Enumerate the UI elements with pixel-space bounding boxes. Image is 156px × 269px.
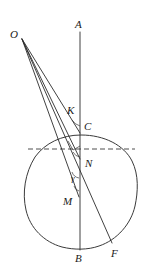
figure-root: A O K C N M B F γ (0, 0, 156, 269)
point-label-A: A (74, 18, 82, 30)
oval-outline (24, 135, 137, 249)
point-label-O: O (10, 28, 18, 40)
angle-arc-at-M (74, 186, 79, 191)
point-label-M: M (62, 195, 73, 207)
point-label-B: B (75, 252, 82, 264)
ray-O-to-N (22, 39, 80, 159)
point-label-F: F (110, 247, 118, 259)
point-label-K: K (66, 104, 75, 116)
ray-O-to-F (22, 39, 112, 243)
point-label-N: N (84, 157, 93, 169)
point-label-C: C (84, 120, 92, 132)
angle-label-gamma: γ (71, 173, 75, 183)
geometry-figure: A O K C N M B F γ (0, 0, 156, 269)
angle-arc-at-C (72, 120, 80, 126)
